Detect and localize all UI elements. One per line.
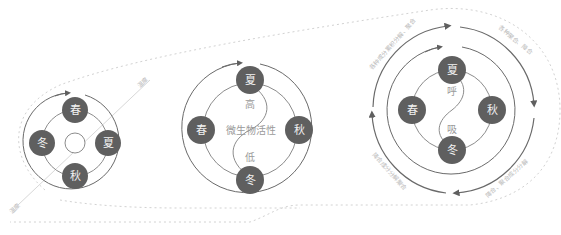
arc-label-top-left: 各种成分累积分解、聚合 [368, 17, 418, 71]
inhale-label: 吸 [447, 124, 457, 135]
season-label-right: 秋 [487, 103, 498, 117]
season-label-right: 夏 [103, 137, 114, 150]
dotted-outline-lower [60, 200, 300, 208]
season-label-bottom: 冬 [245, 173, 256, 187]
middle-ring-arrow [425, 47, 440, 52]
season-label-right: 秋 [294, 123, 305, 137]
high-label: 高 [245, 98, 255, 110]
exhale-label: 呼 [447, 86, 457, 97]
seasonal-cycle-diagram: 温度 温度 春 夏 秋 冬 高 微生物活性 低 夏 秋 冬 春 [0, 0, 561, 235]
outer-arc-top-left [373, 26, 448, 107]
center-circle [65, 133, 85, 153]
season-label-left: 冬 [37, 136, 48, 150]
season-label-left: 春 [407, 104, 418, 117]
season-label-bottom: 秋 [70, 169, 81, 183]
season-label-top: 春 [70, 104, 81, 117]
outer-arc-bottom-right [456, 118, 534, 193]
outer-arc-bottom-left [372, 114, 446, 193]
center-label: 微生物活性 [226, 124, 276, 136]
arc-label-bottom-right: 降合、聚合成分分解 [484, 157, 529, 199]
season-label-top: 夏 [447, 64, 458, 77]
diagram-3: 呼 吸 夏 秋 冬 春 各种成分累积分解、聚合 各种聚合、降合 降合成分分解聚合… [368, 17, 534, 200]
season-label-left: 春 [196, 124, 207, 137]
diagram-2: 高 微生物活性 低 夏 秋 冬 春 [182, 63, 313, 194]
season-label-top: 夏 [245, 74, 256, 87]
arc-label-top-right: 各种聚合、降合 [497, 23, 534, 56]
season-label-bottom: 冬 [447, 143, 458, 157]
low-label: 低 [245, 151, 255, 163]
diagram-1: 温度 温度 春 夏 秋 冬 [8, 75, 150, 215]
arc-label-bottom-left: 降合成分分解聚合 [371, 151, 409, 192]
